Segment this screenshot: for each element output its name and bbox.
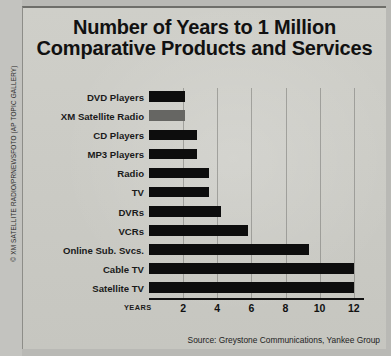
chart-panel: Number of Years to 1 Million Comparative… [22,6,386,349]
bar [149,130,197,141]
x-tick-label: 12 [348,302,360,314]
x-tick-label: 8 [283,302,289,314]
bar [149,282,354,293]
source-note: Source: Greystone Communications, Yankee… [188,335,380,345]
bar-row [149,222,364,241]
bar-row [149,126,364,145]
bar-row [149,279,364,298]
bar-row [149,88,364,107]
bars-container [149,88,364,298]
category-axis-labels: DVD PlayersXM Satellite RadioCD PlayersM… [23,88,149,298]
bar [149,91,185,102]
credit-strip: © XM SATELLITE RADIO/PRNEWSFOTO (AP TOPI… [0,0,22,356]
category-label: Online Sub. Svcs. [23,241,149,260]
bar [149,149,197,160]
category-label: DVD Players [23,88,149,107]
plot-area: DVD PlayersXM Satellite RadioCD PlayersM… [23,84,387,351]
bar-row [149,107,364,126]
bar-row [149,183,364,202]
category-label: Cable TV [23,260,149,279]
chart-title: Number of Years to 1 Million Comparative… [29,17,380,59]
x-tick-label: 2 [180,302,186,314]
x-tick-label: 6 [248,302,254,314]
category-label: CD Players [23,126,149,145]
x-axis-line [149,298,364,300]
bar-row [149,260,364,279]
bar [149,187,209,198]
bar [149,110,185,121]
x-tick-label: 4 [214,302,220,314]
bar-row [149,203,364,222]
chart-title-line-1: Number of Years to 1 Million [29,17,380,38]
x-tick-label: 10 [314,302,326,314]
category-label: Radio [23,164,149,183]
chart-title-line-2: Comparative Products and Services [29,38,380,59]
bar-row [149,241,364,260]
category-label: TV [23,183,149,202]
bar [149,244,309,255]
category-label: DVRs [23,203,149,222]
bar [149,225,248,236]
category-label: Satellite TV [23,279,149,298]
bar [149,206,221,217]
bar-row [149,164,364,183]
bar [149,168,209,179]
x-axis-tick-labels: 24681012 [123,302,373,318]
category-label: MP3 Players [23,145,149,164]
photo-credit-text: © XM SATELLITE RADIO/PRNEWSFOTO (AP TOPI… [10,0,17,329]
category-label: VCRs [23,222,149,241]
category-label: XM Satellite Radio [23,107,149,126]
bar [149,263,354,274]
bar-row [149,145,364,164]
